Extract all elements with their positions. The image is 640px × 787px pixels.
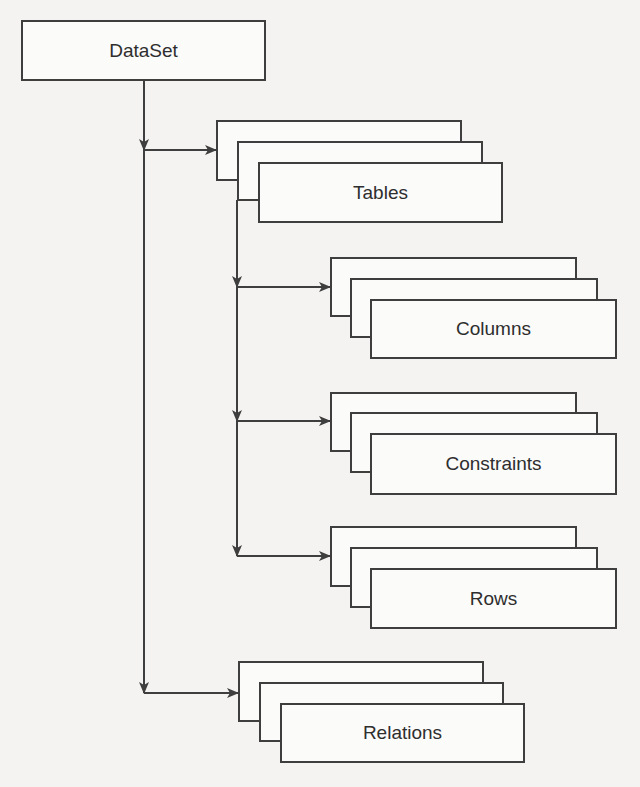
dataset-label: DataSet [23,40,264,62]
dataset-node: DataSet [21,20,266,81]
rows-label: Rows [372,588,615,610]
columns-label: Columns [372,318,615,340]
rows-node: Rows [370,568,617,629]
columns-node: Columns [370,299,617,359]
constraints-node: Constraints [370,433,617,495]
constraints-label: Constraints [372,453,615,475]
relations-node: Relations [280,703,525,763]
tables-label: Tables [260,182,501,204]
relations-label: Relations [282,722,523,744]
tables-node: Tables [258,162,503,223]
